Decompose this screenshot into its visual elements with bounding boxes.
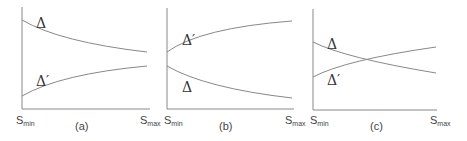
label-delta-prime-c: Δ′: [327, 72, 340, 88]
figure: Δ Δ′ Δ′ Δ Δ Δ′ Smin Smax (a) Smin Smax (…: [0, 0, 467, 141]
caption-c: (c): [370, 120, 383, 132]
label-delta-prime-a: Δ′: [36, 73, 49, 89]
caption-b: (b): [219, 120, 232, 132]
label-delta-a: Δ: [36, 15, 46, 31]
tick-smax-b: Smax: [285, 114, 306, 127]
tick-smin-b: Smin: [164, 114, 183, 127]
label-delta-c: Δ: [327, 36, 337, 52]
tick-smin-c: Smin: [310, 114, 329, 127]
tick-smax-a: Smax: [140, 114, 161, 127]
label-delta-b: Δ: [182, 79, 192, 95]
tick-smin-a: Smin: [16, 114, 35, 127]
label-delta-prime-b: Δ′: [182, 32, 195, 48]
caption-a: (a): [75, 120, 88, 132]
panel-c: [313, 9, 437, 110]
tick-smax-c: Smax: [430, 114, 451, 127]
